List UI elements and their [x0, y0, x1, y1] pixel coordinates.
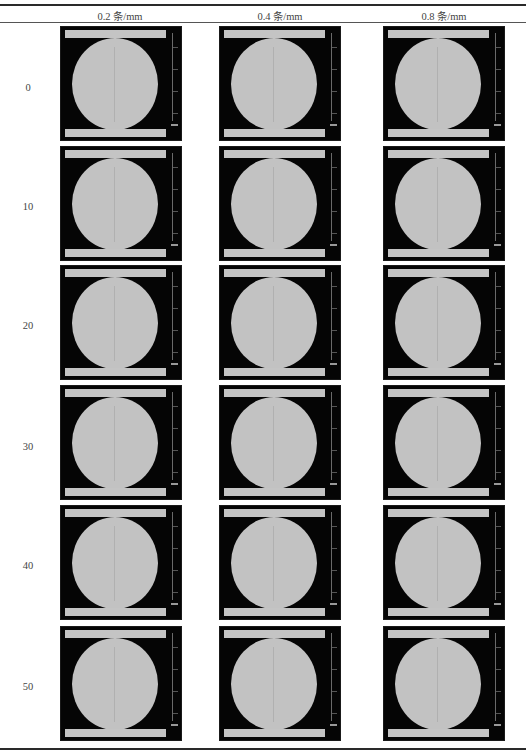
scale-tick — [496, 69, 501, 70]
scale-marker — [494, 483, 501, 485]
lower-platen — [388, 249, 489, 257]
lower-platen — [388, 129, 489, 137]
table-bottom-rule — [0, 748, 526, 750]
scale-tick — [332, 286, 337, 287]
scale-tick — [173, 713, 178, 714]
upper-platen — [224, 30, 325, 38]
specimen-disc — [72, 38, 158, 130]
lower-platen — [65, 129, 166, 137]
scale-marker — [171, 603, 178, 605]
ct-scan-image — [219, 385, 341, 500]
column-header-0-8: 0.8 条/mm — [374, 8, 514, 23]
upper-platen — [65, 630, 166, 638]
scale-tick — [173, 352, 178, 353]
scale-tick — [332, 69, 337, 70]
ct-scan-image — [219, 146, 341, 261]
lower-platen — [65, 488, 166, 496]
scale-marker — [171, 483, 178, 485]
scale-tick — [173, 647, 178, 648]
scale-tick — [173, 669, 178, 670]
scale-tick — [173, 450, 178, 451]
scale-tick — [332, 472, 337, 473]
specimen-disc — [72, 158, 158, 250]
scale-tick — [496, 189, 501, 190]
row-label: 50 — [0, 681, 56, 692]
scale-tick — [496, 91, 501, 92]
crack-line — [114, 406, 115, 481]
scale-marker — [494, 603, 501, 605]
ct-scan-image — [219, 505, 341, 620]
crack-line — [273, 406, 274, 481]
table-header-rule — [0, 22, 526, 23]
scale-tick — [332, 47, 337, 48]
scale-tick — [173, 330, 178, 331]
scale-tick — [496, 669, 501, 670]
upper-platen — [224, 509, 325, 517]
crack-line — [437, 167, 438, 242]
lower-platen — [388, 608, 489, 616]
ct-scan-image — [383, 146, 505, 261]
scale-tick — [496, 113, 501, 114]
scale-tick — [496, 286, 501, 287]
ct-scan-image — [60, 385, 182, 500]
crack-line — [437, 286, 438, 361]
ct-scan-image — [383, 505, 505, 620]
specimen-disc — [395, 38, 481, 130]
lower-platen — [65, 729, 166, 737]
scale-tick — [332, 691, 337, 692]
scale-marker — [171, 724, 178, 726]
lower-platen — [224, 368, 325, 376]
specimen-disc — [231, 397, 317, 489]
scale-tick — [173, 69, 178, 70]
ct-scan-image — [60, 505, 182, 620]
lower-platen — [224, 129, 325, 137]
upper-platen — [388, 509, 489, 517]
upper-platen — [65, 269, 166, 277]
scale-tick — [173, 406, 178, 407]
scale-tick — [173, 428, 178, 429]
ct-scan-image — [383, 385, 505, 500]
scale-tick — [332, 330, 337, 331]
row-label: 20 — [0, 320, 56, 331]
scale-marker — [494, 363, 501, 365]
scale-tick — [496, 47, 501, 48]
scale-tick — [496, 713, 501, 714]
crack-line — [273, 167, 274, 242]
crack-line — [273, 526, 274, 601]
upper-platen — [65, 30, 166, 38]
scale-marker — [330, 244, 337, 246]
scale-tick — [173, 286, 178, 287]
specimen-disc — [231, 277, 317, 369]
upper-platen — [65, 389, 166, 397]
upper-platen — [224, 630, 325, 638]
upper-platen — [388, 269, 489, 277]
scale-tick — [496, 406, 501, 407]
lower-platen — [388, 368, 489, 376]
scale-marker — [171, 363, 178, 365]
scale-tick — [332, 428, 337, 429]
scale-marker — [330, 124, 337, 126]
scale-tick — [332, 592, 337, 593]
crack-line — [273, 286, 274, 361]
specimen-disc — [72, 638, 158, 730]
crack-line — [437, 47, 438, 122]
scale-marker — [494, 124, 501, 126]
scale-tick — [173, 91, 178, 92]
specimen-disc — [395, 158, 481, 250]
specimen-disc — [72, 277, 158, 369]
ct-scan-image — [383, 26, 505, 141]
scale-tick — [173, 211, 178, 212]
scale-tick — [173, 189, 178, 190]
scale-tick — [332, 233, 337, 234]
table-caption-fragment — [230, 0, 320, 4]
lower-platen — [388, 488, 489, 496]
scale-tick — [332, 352, 337, 353]
scale-tick — [332, 548, 337, 549]
scale-tick — [496, 691, 501, 692]
crack-line — [114, 286, 115, 361]
crack-line — [273, 47, 274, 122]
upper-platen — [65, 509, 166, 517]
lower-platen — [65, 249, 166, 257]
scale-tick — [332, 406, 337, 407]
ct-scan-image — [219, 26, 341, 141]
